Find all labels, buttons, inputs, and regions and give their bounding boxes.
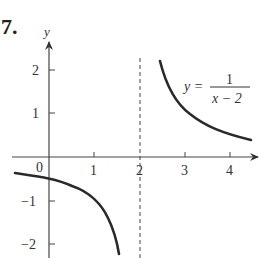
function-denominator: x − 2 [211,91,242,106]
x-tick-label-1: 1 [90,163,97,178]
plot-area: y 0 1 2 3 4 2 1 −1 −2 y = [0,0,264,278]
x-ticks [94,152,230,157]
x-tick-label-3: 3 [181,163,188,178]
y-tick-label-neg2: −2 [21,237,36,252]
function-numerator: 1 [226,72,233,87]
y-tick-label-1: 1 [32,106,39,121]
graph-figure: 7. y 0 1 2 3 4 2 [0,0,264,278]
y-tick-label-2: 2 [32,63,39,78]
function-label: y = 1 x − 2 [182,72,250,106]
x-tick-label-4: 4 [226,163,233,178]
function-lhs: y = [182,79,203,94]
problem-number: 7. [1,14,18,40]
y-tick-label-neg1: −1 [21,194,36,209]
y-axis-label: y [42,24,50,39]
x-tick-label-0: 0 [36,160,43,175]
